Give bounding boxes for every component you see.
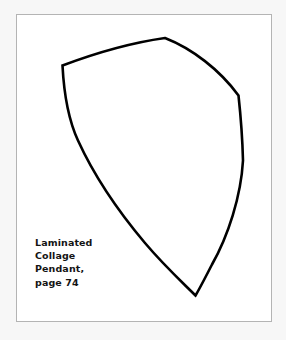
caption-line-4: page 74 — [35, 276, 145, 289]
caption-line-3: Pendant, — [35, 262, 145, 275]
pattern-caption: Laminated Collage Pendant, page 74 — [35, 236, 145, 289]
pattern-sheet: Laminated Collage Pendant, page 74 — [0, 0, 286, 340]
caption-line-2: Collage — [35, 249, 145, 262]
caption-line-1: Laminated — [35, 236, 145, 249]
